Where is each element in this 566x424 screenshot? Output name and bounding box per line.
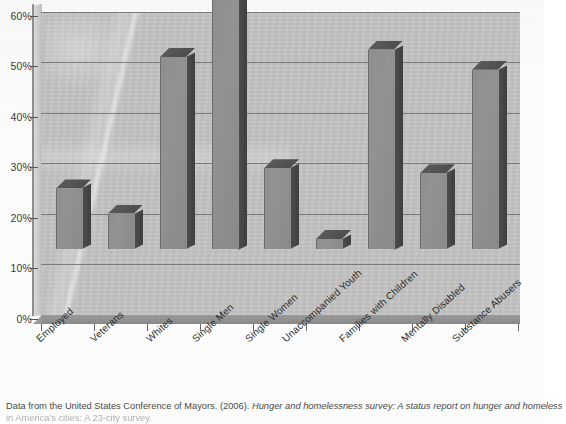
xlabel-employed: Employed: [34, 305, 75, 344]
caption-source: Data from the United States Conference o…: [6, 401, 252, 411]
bar-chart: 60% 50% 40% 30% 20% 10% 0%: [0, 0, 544, 396]
figure-caption: Data from the United States Conference o…: [6, 401, 566, 413]
xlabel-whites: Whites: [144, 315, 175, 344]
figure-caption-line2: in America's cities: A 23-city survey.: [6, 413, 566, 424]
xlabel-veterans: Veterans: [88, 309, 126, 344]
caption-title-continued: in America's cities: A 23-city survey.: [6, 413, 152, 423]
x-axis-labels: Employed Veterans Whites Single Men Sing…: [0, 0, 544, 396]
caption-title: Hunger and homelessness survey: A status…: [252, 401, 562, 411]
xlabel-single-men: Single Men: [190, 302, 236, 345]
